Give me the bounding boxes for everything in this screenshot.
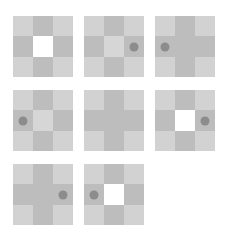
grid-cell — [13, 57, 33, 77]
grid-cell — [195, 131, 215, 151]
grid-panel-1 — [13, 16, 73, 77]
grid-panel-6 — [155, 90, 215, 151]
grid-cell — [53, 205, 73, 225]
dot-marker-icon — [201, 116, 210, 125]
grid-cell — [104, 57, 124, 77]
dot-marker-icon — [90, 190, 99, 199]
dot-marker-icon — [59, 190, 68, 199]
grid-cell — [124, 36, 144, 57]
grid-cell — [33, 205, 53, 225]
grid-cell — [13, 90, 33, 110]
grid-cell — [195, 16, 215, 36]
grid-cell — [84, 57, 104, 77]
grid-cell — [13, 164, 33, 184]
grid-cell — [155, 131, 175, 151]
grid-cell — [33, 57, 53, 77]
grid-cell — [195, 36, 215, 57]
grid-cell — [195, 57, 215, 77]
grid-cell — [84, 90, 104, 110]
grid-cell — [175, 16, 195, 36]
grid-cell — [124, 16, 144, 36]
grid-cell — [33, 110, 53, 131]
grid-cell — [104, 16, 124, 36]
grid-cell — [13, 36, 33, 57]
grid-cell — [33, 164, 53, 184]
grid-cell — [84, 164, 104, 184]
grid-cell — [53, 184, 73, 205]
grid-cell — [104, 131, 124, 151]
grid-cell — [33, 90, 53, 110]
grid-panel-3 — [155, 16, 215, 77]
grid-cell — [175, 90, 195, 110]
grid-cell — [84, 205, 104, 225]
grid-cell — [84, 131, 104, 151]
grid-panel-4 — [13, 90, 73, 151]
grid-cell — [124, 57, 144, 77]
grid-cell — [195, 110, 215, 131]
grid-cell — [53, 110, 73, 131]
grid-cell — [53, 131, 73, 151]
grid-cell — [84, 184, 104, 205]
grid-cell — [53, 90, 73, 110]
grid-cell — [155, 110, 175, 131]
grid-cell — [53, 164, 73, 184]
grid-cell — [84, 36, 104, 57]
grid-panel-7 — [13, 164, 73, 225]
grid-cell — [104, 184, 124, 205]
grid-cell — [33, 36, 53, 57]
grid-cell — [155, 16, 175, 36]
grid-cell — [33, 16, 53, 36]
grid-cell — [104, 90, 124, 110]
grid-cell — [124, 110, 144, 131]
grid-cell — [195, 90, 215, 110]
grid-cell — [175, 57, 195, 77]
grid-cell — [175, 36, 195, 57]
grid-cell — [13, 131, 33, 151]
grid-cell — [104, 36, 124, 57]
grid-panel-5 — [84, 90, 144, 151]
grid-cell — [13, 205, 33, 225]
grid-cell — [53, 57, 73, 77]
grid-cell — [175, 131, 195, 151]
grid-cell — [13, 16, 33, 36]
dot-marker-icon — [19, 116, 28, 125]
grid-cell — [13, 110, 33, 131]
grid-cell — [53, 36, 73, 57]
dot-marker-icon — [130, 42, 139, 51]
grid-cell — [155, 36, 175, 57]
grid-cell — [124, 131, 144, 151]
grid-panel-2 — [84, 16, 144, 77]
grid-cell — [155, 57, 175, 77]
grid-cell — [124, 184, 144, 205]
grid-cell — [155, 90, 175, 110]
grid-cell — [53, 16, 73, 36]
grid-cell — [33, 131, 53, 151]
grid-cell — [124, 205, 144, 225]
grid-cell — [124, 90, 144, 110]
grid-cell — [104, 110, 124, 131]
grid-cell — [104, 205, 124, 225]
grid-cell — [84, 110, 104, 131]
dot-marker-icon — [161, 42, 170, 51]
grid-cell — [104, 164, 124, 184]
grid-panel-8 — [84, 164, 144, 225]
grid-cell — [84, 16, 104, 36]
grid-cell — [175, 110, 195, 131]
grid-cell — [33, 184, 53, 205]
grid-cell — [124, 164, 144, 184]
grid-cell — [13, 184, 33, 205]
